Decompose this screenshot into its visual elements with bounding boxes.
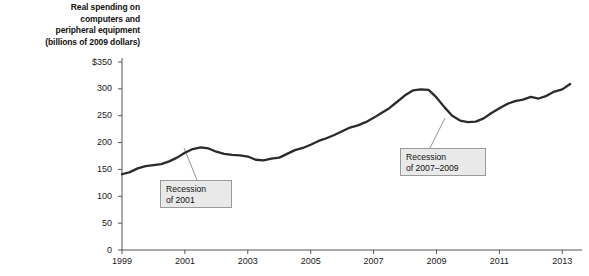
x-tick-label: 1999 [102, 257, 142, 266]
annotation-line-1: Recession [406, 152, 480, 163]
x-tick-label: 2011 [479, 257, 519, 266]
chart-axes [122, 58, 582, 250]
y-tick-label: 250 [76, 111, 112, 120]
x-tick-label: 2001 [165, 257, 205, 266]
annotation-line-2: of 2001 [166, 195, 226, 206]
y-tick-label: 300 [76, 84, 112, 93]
y-tick-label: 0 [76, 246, 112, 255]
x-tick-label: 2005 [291, 257, 331, 266]
x-tick-label: 2007 [354, 257, 394, 266]
y-axis-ticks [118, 62, 122, 250]
x-tick-label: 2009 [416, 257, 456, 266]
x-tick-label: 2013 [542, 257, 582, 266]
y-tick-label: 100 [76, 192, 112, 201]
annotation-line-1: Recession [166, 184, 226, 195]
leader-line-recession-2007-2009 [430, 118, 445, 148]
annotation-recession-2007-2009: Recessionof 2007–2009 [400, 148, 486, 176]
annotation-recession-2001: Recessionof 2001 [160, 180, 232, 208]
y-tick-label: 150 [76, 165, 112, 174]
annotation-line-2: of 2007–2009 [406, 163, 480, 174]
y-tick-label: 50 [76, 219, 112, 228]
y-tick-label: $350 [76, 58, 112, 67]
y-tick-label: 200 [76, 138, 112, 147]
x-tick-label: 2003 [228, 257, 268, 266]
chart-figure: Real spending on computers and periphera… [0, 0, 589, 276]
x-axis-ticks [122, 250, 562, 254]
